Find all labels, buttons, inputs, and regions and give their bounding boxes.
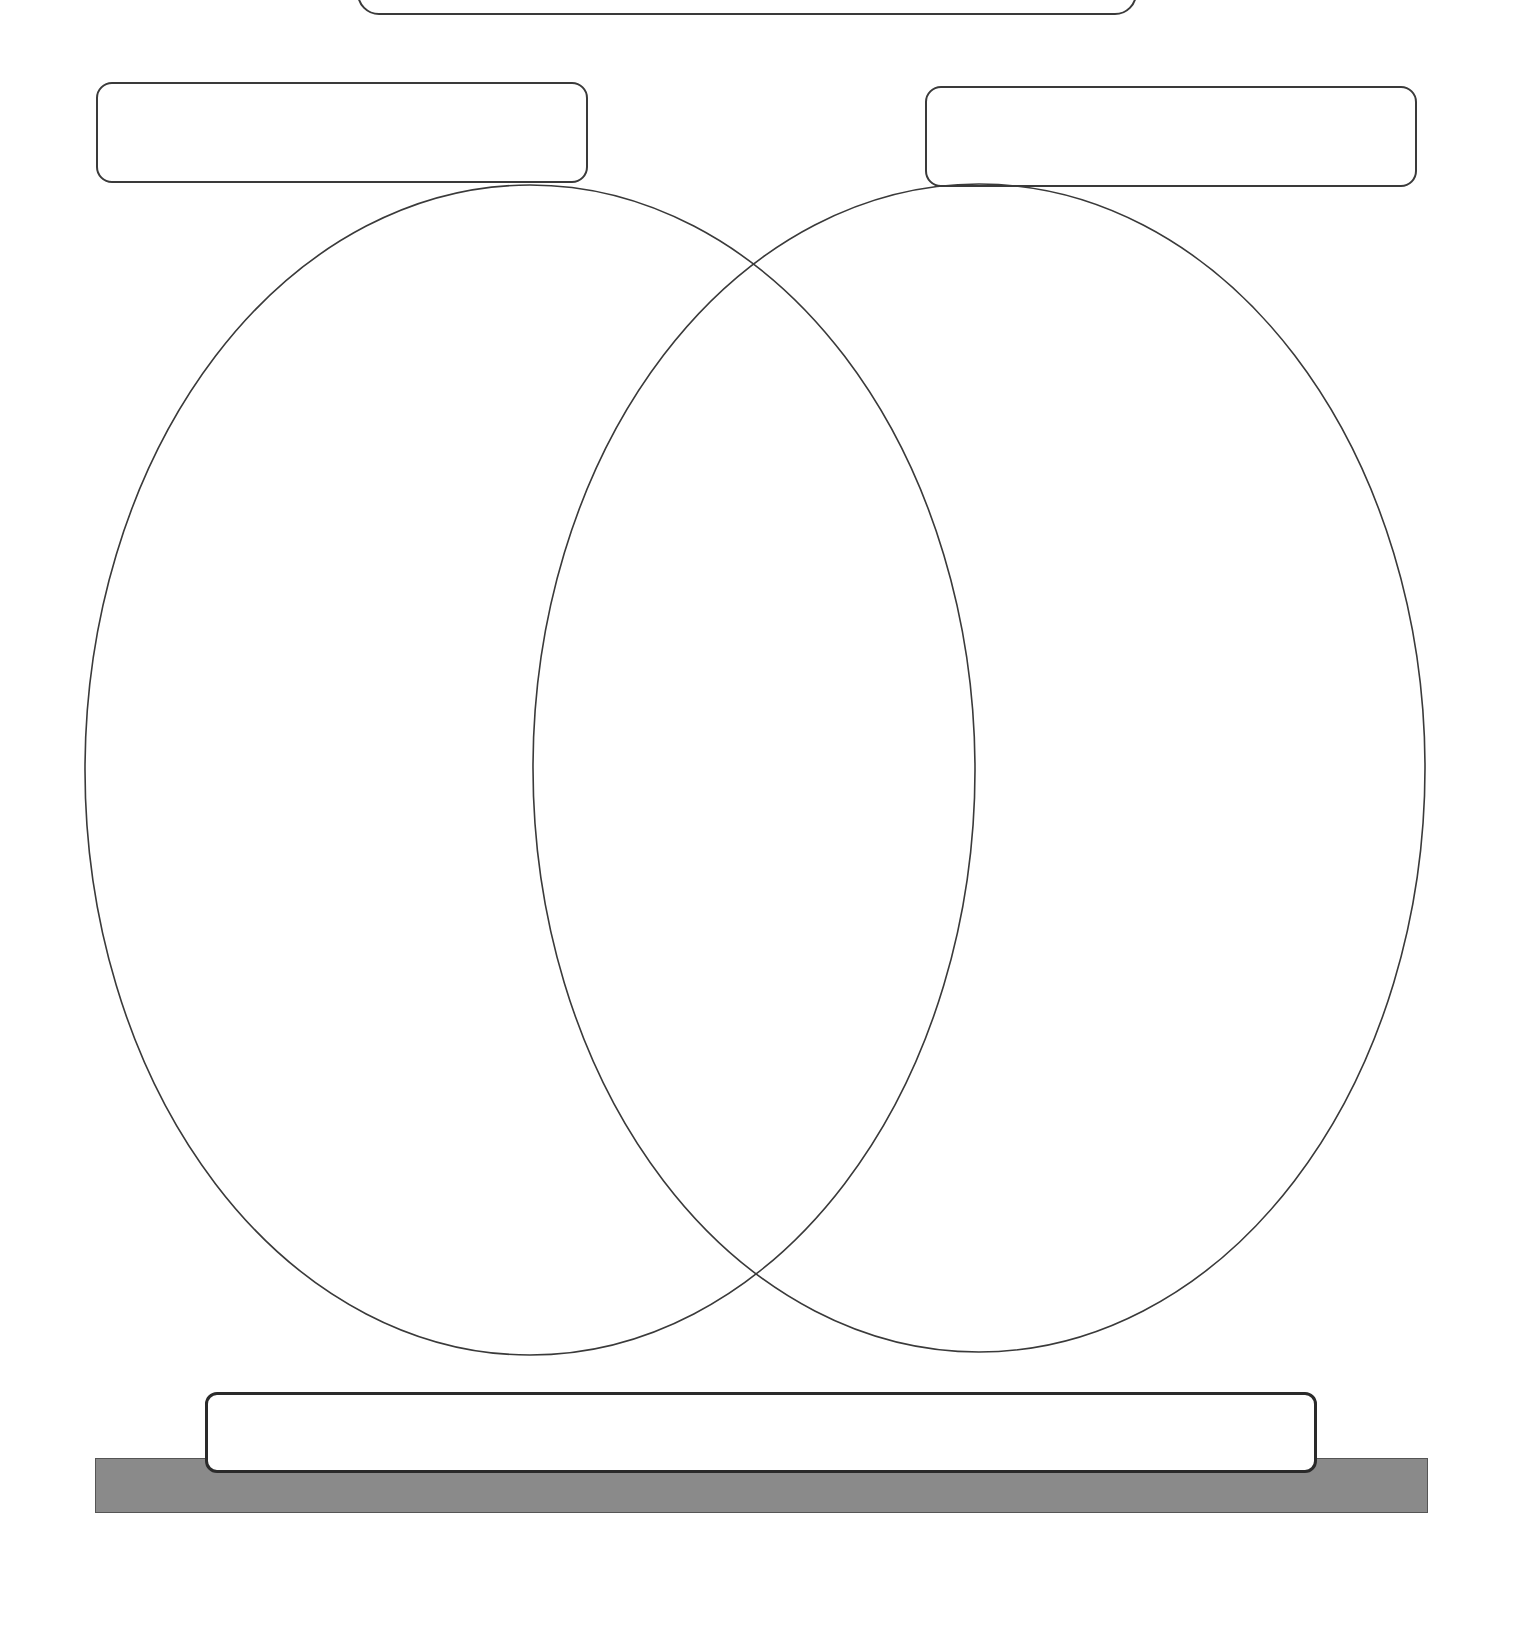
right-set-ellipse[interactable] bbox=[533, 184, 1425, 1352]
right-set-label-box[interactable] bbox=[925, 86, 1417, 187]
bottom-summary-box[interactable] bbox=[205, 1392, 1317, 1473]
left-set-ellipse[interactable] bbox=[85, 185, 975, 1355]
title-box[interactable] bbox=[357, 0, 1137, 15]
left-set-label-box[interactable] bbox=[96, 82, 588, 183]
